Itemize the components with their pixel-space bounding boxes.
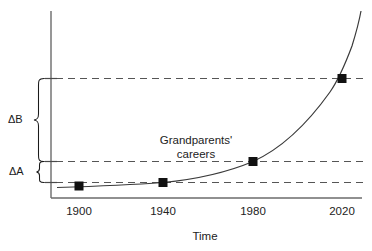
xtick-label-2020: 2020 [322,205,362,217]
delta-b-brace-icon [34,79,44,162]
chart-figure: ΔB ΔA Grandparents' careers 1900 1940 19… [0,0,372,251]
xtick-label-1980: 1980 [233,205,273,217]
delta-a-label: ΔA [9,165,24,177]
exponential-growth-curve [57,11,361,188]
chart-plot-area [0,0,372,251]
x-axis-title: Time [165,230,245,242]
data-point-1900 [75,182,84,191]
xtick-label-1900: 1900 [59,205,99,217]
delta-b-label: ΔB [8,113,23,125]
xtick-label-1940: 1940 [143,205,183,217]
annotation-line-2: careers [136,148,256,162]
annotation-line-1: Grandparents' [136,134,256,148]
data-point-1940 [159,178,168,187]
delta-a-brace-icon [37,162,45,183]
grandparents-careers-annotation: Grandparents' careers [136,134,256,161]
data-point-2020 [338,74,347,83]
